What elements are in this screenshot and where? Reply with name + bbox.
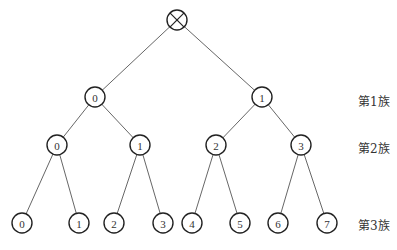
tree-edge: [95, 20, 177, 97]
tree-node-l2-1: 1: [130, 135, 150, 155]
tree-edge: [114, 145, 140, 223]
tree-node-l2-0: 0: [47, 135, 67, 155]
tree-node-l1-0: 0: [85, 87, 105, 107]
svg-text:3: 3: [298, 140, 304, 152]
root-node-xor-icon: [167, 10, 187, 30]
tree-node-l3-4: 4: [182, 213, 202, 233]
level-label-3: 第3族: [358, 216, 390, 233]
svg-text:5: 5: [237, 218, 243, 230]
svg-text:1: 1: [137, 140, 143, 152]
tree-edge: [22, 145, 57, 223]
tree-node-l3-6: 6: [268, 213, 288, 233]
tree-node-l3-5: 5: [230, 213, 250, 233]
tree-diagram: 01012301234567: [0, 0, 397, 250]
svg-text:3: 3: [160, 218, 166, 230]
svg-text:7: 7: [324, 218, 330, 230]
tree-node-l1-1: 1: [252, 87, 272, 107]
tree-edge: [177, 20, 262, 97]
tree-node-l2-3: 3: [291, 135, 311, 155]
svg-text:4: 4: [189, 218, 195, 230]
svg-text:2: 2: [111, 218, 117, 230]
tree-edge: [301, 145, 327, 223]
tree-node-l3-2: 2: [104, 213, 124, 233]
svg-text:0: 0: [54, 140, 60, 152]
svg-text:2: 2: [213, 140, 219, 152]
tree-node-l2-2: 2: [206, 135, 226, 155]
tree-node-l3-0: 0: [12, 213, 32, 233]
tree-edge: [216, 145, 240, 223]
tree-nodes: 01012301234567: [12, 10, 337, 233]
svg-text:6: 6: [275, 218, 281, 230]
tree-edges: [22, 20, 327, 223]
level-label-2: 第2族: [358, 139, 390, 156]
tree-edge: [57, 145, 79, 223]
svg-text:0: 0: [92, 92, 98, 104]
svg-text:1: 1: [259, 92, 265, 104]
tree-edge: [192, 145, 216, 223]
tree-edge: [278, 145, 301, 223]
svg-text:0: 0: [19, 218, 25, 230]
svg-text:1: 1: [76, 218, 82, 230]
level-label-1: 第1族: [358, 92, 390, 109]
tree-node-l3-7: 7: [317, 213, 337, 233]
tree-node-l3-3: 3: [153, 213, 173, 233]
tree-node-l3-1: 1: [69, 213, 89, 233]
tree-edge: [140, 145, 163, 223]
